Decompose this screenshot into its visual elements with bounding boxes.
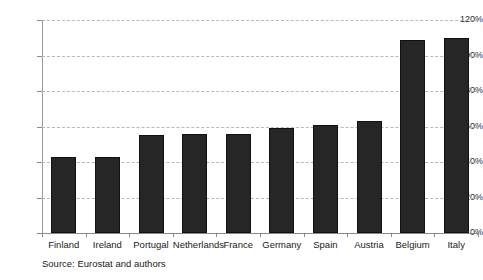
x-tick-mark — [478, 233, 479, 237]
x-tick-label-france: France — [216, 239, 260, 250]
x-tick-label-portugal: Portugal — [129, 239, 173, 250]
x-tick-mark — [216, 233, 217, 237]
bar-series — [42, 20, 478, 233]
x-tick-mark — [260, 233, 261, 237]
x-tick-label-ireland: Ireland — [86, 239, 130, 250]
x-tick-mark — [304, 233, 305, 237]
bar-portugal — [139, 135, 164, 233]
bar-france — [226, 134, 251, 233]
x-tick-mark — [129, 233, 130, 237]
plot-area — [42, 20, 478, 233]
bar-belgium — [400, 40, 425, 233]
x-tick-label-austria: Austria — [347, 239, 391, 250]
x-tick-label-belgium: Belgium — [391, 239, 435, 250]
x-tick-label-germany: Germany — [260, 239, 304, 250]
x-tick-label-finland: Finland — [42, 239, 86, 250]
x-tick-mark — [86, 233, 87, 237]
bar-germany — [269, 128, 294, 233]
bar-italy — [444, 38, 469, 233]
x-tick-label-netherlands: Netherlands — [173, 239, 217, 250]
bar-chart-figure: 0%20%40%60%80%100%120% FinlandIrelandPor… — [0, 0, 483, 280]
bar-netherlands — [182, 134, 207, 233]
x-tick-mark — [173, 233, 174, 237]
bar-ireland — [95, 157, 120, 233]
bar-austria — [357, 121, 382, 233]
bar-finland — [51, 157, 76, 233]
x-tick-label-spain: Spain — [304, 239, 348, 250]
x-tick-mark — [391, 233, 392, 237]
x-tick-mark — [42, 233, 43, 237]
x-tick-mark — [434, 233, 435, 237]
bar-spain — [313, 125, 338, 233]
source-note: Source: Eurostat and authors — [42, 258, 166, 269]
x-tick-mark — [347, 233, 348, 237]
x-tick-label-italy: Italy — [434, 239, 478, 250]
